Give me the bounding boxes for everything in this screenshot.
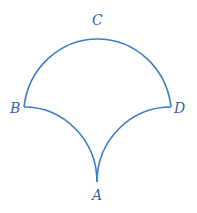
label-c: C <box>92 12 103 28</box>
label-d: D <box>173 100 185 116</box>
arc-b-c-d <box>24 39 171 107</box>
figure-canvas: C B D A <box>0 0 197 213</box>
arc-d-a <box>97 107 171 182</box>
arc-b-a <box>24 107 97 182</box>
label-a: A <box>90 187 102 203</box>
label-b: B <box>9 100 20 116</box>
